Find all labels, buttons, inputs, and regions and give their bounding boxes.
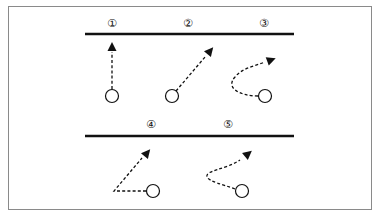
circle-marker [236, 185, 249, 198]
item-5: ⑤ [207, 118, 255, 198]
circle-marker [147, 185, 160, 198]
movement-diagram: ①②③④⑤ [0, 0, 378, 217]
item-label: ⑤ [223, 118, 233, 131]
arrowhead-icon [141, 146, 154, 159]
arrowhead-icon [108, 42, 117, 51]
item-4: ④ [114, 118, 160, 198]
circle-marker [259, 90, 272, 103]
dashed-path [207, 160, 240, 189]
dashed-path [114, 158, 146, 191]
item-2: ② [166, 17, 217, 103]
arrowhead-icon [266, 54, 278, 66]
circle-marker [166, 90, 179, 103]
item-label: ① [107, 17, 117, 30]
arrowhead-icon [204, 44, 217, 57]
item-1: ① [106, 17, 119, 103]
dashed-path [176, 57, 205, 91]
item-label: ② [183, 17, 193, 30]
dashed-path [232, 62, 265, 96]
item-label: ③ [259, 17, 269, 30]
arrowhead-icon [242, 147, 255, 160]
circle-marker [106, 90, 119, 103]
item-label: ④ [146, 118, 156, 131]
item-3: ③ [232, 17, 277, 103]
